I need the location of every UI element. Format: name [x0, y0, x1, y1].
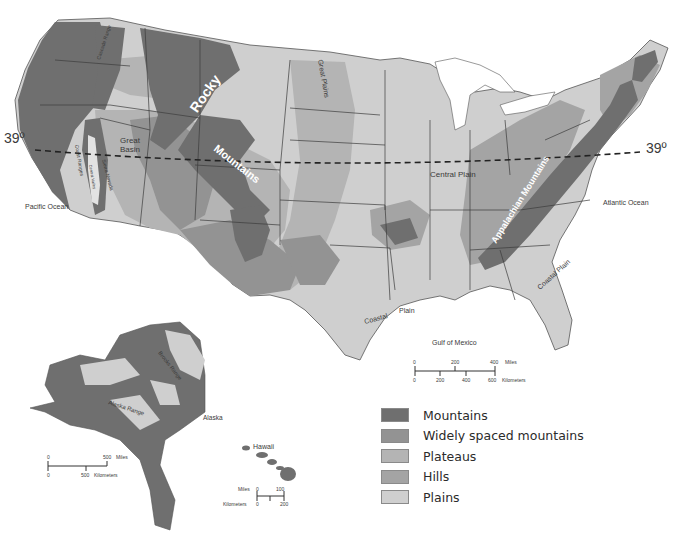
atlantic-ocean-label: Atlantic Ocean — [603, 199, 649, 206]
conus-scale-mi-0: 0 — [413, 359, 416, 365]
conus-scale-km-200: 200 — [436, 377, 445, 383]
conus-scale-km-0: 0 — [413, 377, 416, 383]
central-plain-label: Central Plain — [430, 170, 476, 179]
legend-item-widely-spaced-mountains: Widely spaced mountains — [381, 426, 641, 447]
legend-swatch-widely-spaced-mountains — [381, 429, 409, 443]
alaska-scale-mi-0: 0 — [47, 454, 50, 460]
legend-item-mountains: Mountains — [381, 405, 641, 426]
coastal-plain-label-2: Plain — [399, 307, 415, 314]
conus-scale-km-unit: Kilometers — [502, 377, 526, 383]
hawaii-label: Hawaii — [253, 443, 274, 450]
alaska-scale-km-unit: Kilometers — [94, 472, 118, 478]
conus-scale-mi-200: 200 — [451, 359, 460, 365]
legend-label-plains: Plains — [423, 490, 460, 505]
legend-label-hills: Hills — [423, 469, 449, 484]
alaska-label: Alaska — [203, 414, 223, 421]
legend-label-widely-spaced-mountains: Widely spaced mountains — [423, 428, 584, 443]
legend-item-plains: Plains — [381, 487, 641, 508]
latitude-label-right: 39º — [646, 140, 667, 156]
alaska-scale-mi-500: 500 — [103, 454, 112, 460]
hawaii-islands — [242, 446, 296, 482]
great-basin-label-1: Great — [120, 136, 141, 145]
legend-swatch-plains — [381, 490, 409, 504]
hawaii-scale-km-200: 200 — [280, 501, 289, 507]
great-basin-label-2: Basin — [120, 145, 140, 154]
pacific-ocean-label: Pacific Ocean — [25, 203, 68, 210]
map-legend: Mountains Widely spaced mountains Platea… — [381, 405, 641, 508]
hawaii-scale-mi-0: 0 — [256, 486, 259, 492]
legend-label-mountains: Mountains — [423, 408, 488, 423]
latitude-label-left: 39º — [4, 130, 25, 146]
hawaii-scale-mi-unit: Miles — [238, 486, 250, 492]
hawaii-scale-km-unit: Kilometers — [223, 501, 247, 507]
gulf-of-mexico-label: Gulf of Mexico — [432, 339, 477, 346]
hawaii-scale-km-0: 0 — [256, 501, 259, 507]
legend-swatch-hills — [381, 470, 409, 484]
conus-scale-bar — [415, 366, 495, 376]
legend-item-hills: Hills — [381, 467, 641, 488]
alaska-scale-km-0: 0 — [47, 472, 50, 478]
conus-scale-km-400: 400 — [462, 377, 471, 383]
alaska-scale-mi-unit: Miles — [116, 454, 128, 460]
legend-swatch-mountains — [381, 408, 409, 422]
alaska-scale-km-500: 500 — [81, 472, 90, 478]
legend-item-plateaus: Plateaus — [381, 446, 641, 467]
conus-scale-km-600: 600 — [488, 377, 497, 383]
legend-swatch-plateaus — [381, 449, 409, 463]
alaska-scale-bar — [48, 461, 107, 471]
hawaii-scale-mi-100: 100 — [276, 486, 285, 492]
hawaii-scale-bar — [257, 491, 284, 501]
conus-scale-mi-unit: Miles — [505, 359, 517, 365]
conus-scale-mi-400: 400 — [490, 359, 499, 365]
legend-label-plateaus: Plateaus — [423, 449, 476, 464]
